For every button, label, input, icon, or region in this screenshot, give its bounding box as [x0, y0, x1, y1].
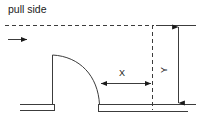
x-dimension-label: X [119, 68, 125, 78]
diagram-canvas: pull side X Y [0, 0, 205, 128]
y-dimension-label: Y [159, 67, 169, 73]
pull-side-label: pull side [8, 3, 47, 15]
door-clearance-diagram: pull side X Y [0, 0, 205, 128]
door-swing-arc [53, 55, 100, 105]
